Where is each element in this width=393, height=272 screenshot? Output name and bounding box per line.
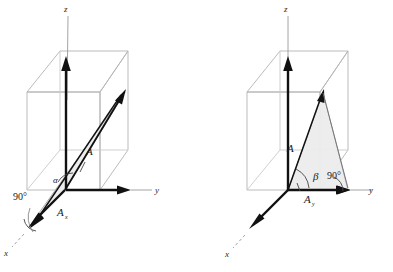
component-Ay-letter: A <box>303 193 311 205</box>
vector-A-label: A <box>85 145 93 157</box>
component-Ay-subscript: y <box>311 201 315 207</box>
beta-panel-svg: z y x A β 90° A y <box>196 0 393 272</box>
beta-panel: z y x A β 90° A y <box>196 0 393 272</box>
x-axis-arrow-shaft <box>258 190 288 220</box>
beta-angle-label: β <box>312 170 319 182</box>
x-axis-label: x <box>224 249 229 259</box>
alpha-angle-label: α <box>53 175 58 185</box>
z-axis-arrow-head <box>61 56 71 71</box>
box-top-face <box>27 51 128 92</box>
figure-root: z y x A α 90° A x <box>0 0 393 272</box>
component-Ax-letter: A <box>56 206 64 218</box>
z-axis-label: z <box>63 4 68 14</box>
right-angle-label: 90° <box>13 191 27 202</box>
right-angle-label: 90° <box>327 170 341 181</box>
vector-A-label: A <box>286 142 294 154</box>
component-Ax-label: A x <box>56 206 68 220</box>
alpha-panel: z y x A α 90° A x <box>0 0 196 272</box>
component-Ax-subscript: x <box>64 214 68 220</box>
y-axis-arrow-head <box>117 185 131 194</box>
x-axis-reference-line <box>233 235 245 248</box>
x-axis-reference-line <box>12 234 24 247</box>
z-axis-arrow-head <box>283 56 293 71</box>
component-Ay-label: A y <box>303 193 315 207</box>
box-front-face <box>27 92 100 190</box>
component-Ax-shaft <box>38 95 121 218</box>
component-Ax-arrow-head <box>29 213 44 229</box>
box-top-face <box>247 51 348 92</box>
z-axis-label: z <box>283 4 288 14</box>
x-axis-label: x <box>3 248 8 258</box>
y-axis-label: y <box>368 185 373 195</box>
y-axis-label: y <box>154 185 159 195</box>
alpha-panel-svg: z y x A α 90° A x <box>0 0 196 272</box>
